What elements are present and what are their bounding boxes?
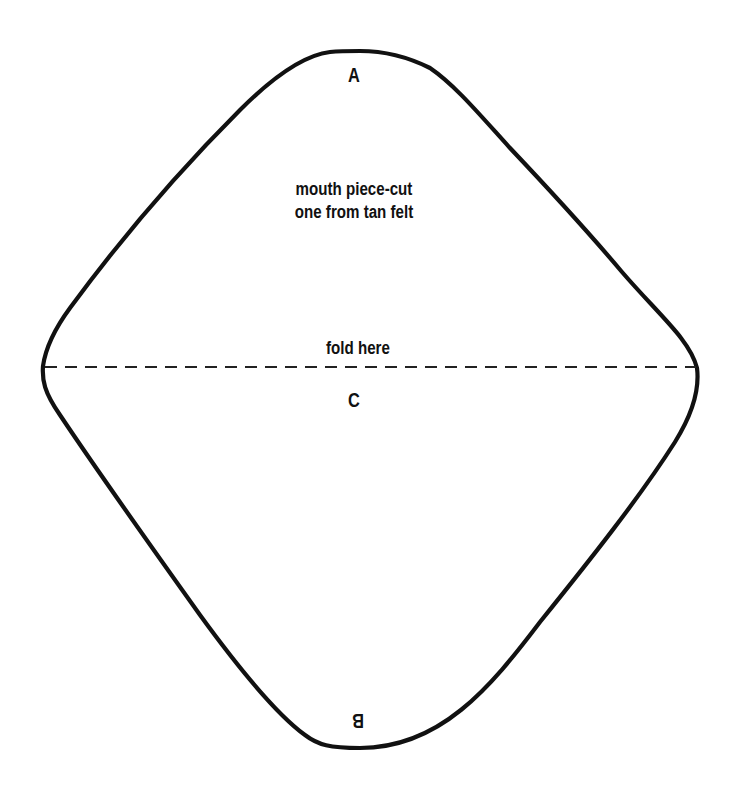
instruction-line-2: one from tan felt bbox=[262, 201, 447, 224]
instruction-line-1: mouth piece-cut bbox=[262, 178, 447, 201]
cutting-instruction: mouth piece-cut one from tan felt bbox=[262, 178, 447, 224]
mouth-piece-outline bbox=[43, 51, 698, 748]
point-label-b: B bbox=[346, 709, 369, 733]
fold-here-label: fold here bbox=[266, 337, 451, 360]
point-label-a: A bbox=[342, 63, 365, 87]
point-label-c: C bbox=[342, 388, 365, 412]
pattern-diagram bbox=[0, 0, 734, 798]
